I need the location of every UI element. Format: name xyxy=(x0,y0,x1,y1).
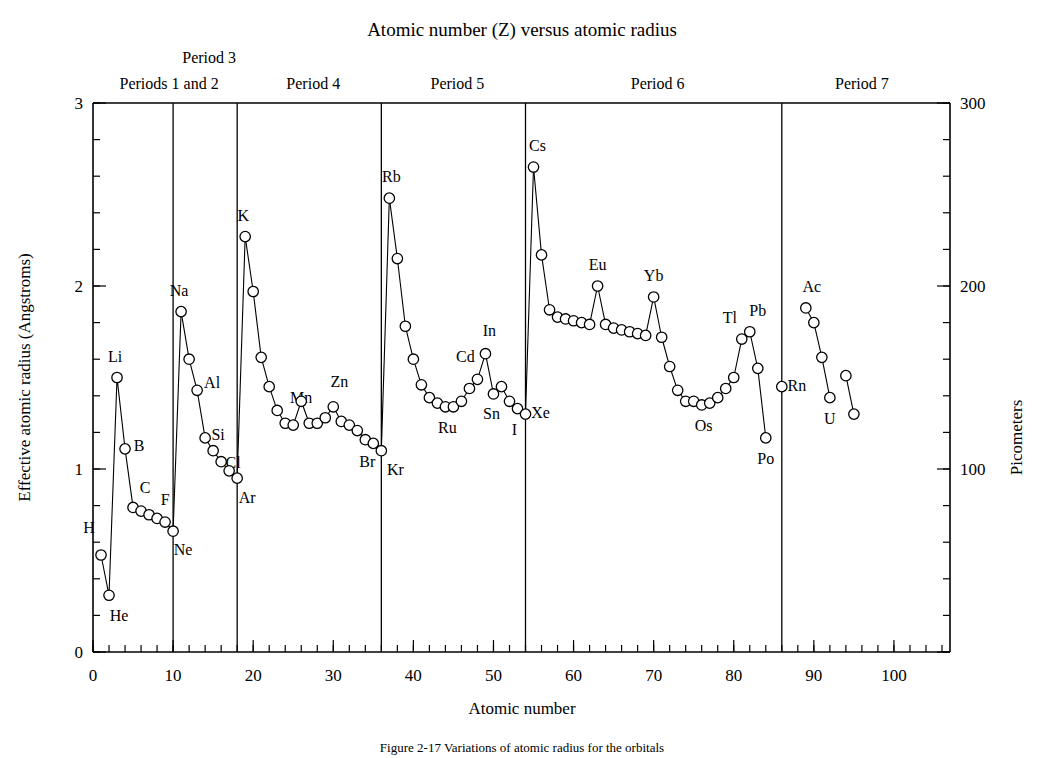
period-connector xyxy=(237,237,245,479)
data-point xyxy=(817,352,827,362)
data-point xyxy=(240,231,250,241)
data-point xyxy=(256,352,266,362)
x-axis-title: Atomic number xyxy=(468,699,576,718)
data-point xyxy=(176,306,186,316)
chart-title: Atomic number (Z) versus atomic radius xyxy=(367,19,677,41)
series-line-4 xyxy=(534,167,766,438)
data-point xyxy=(801,303,811,313)
data-point xyxy=(384,193,394,203)
element-label-Zn: Zn xyxy=(330,373,348,390)
data-point xyxy=(248,286,258,296)
data-point xyxy=(184,354,194,364)
data-point xyxy=(841,370,851,380)
data-point xyxy=(192,385,202,395)
element-label-Ru: Ru xyxy=(438,419,457,436)
series-line-3 xyxy=(389,198,525,414)
y-tick-label: 2 xyxy=(75,277,84,296)
figure-atomic-radius: Atomic number (Z) versus atomic radiusPe… xyxy=(0,0,1045,758)
period-connector xyxy=(173,312,181,532)
data-point xyxy=(376,446,386,456)
data-point xyxy=(120,444,130,454)
data-point xyxy=(584,319,594,329)
element-label-Na: Na xyxy=(170,282,189,299)
atomic-radius-chart: Atomic number (Z) versus atomic radiusPe… xyxy=(0,0,1045,758)
y-right-tick-label: 100 xyxy=(960,460,986,479)
element-label-I: I xyxy=(512,421,517,438)
period-connector xyxy=(526,167,534,414)
element-label-Li: Li xyxy=(108,348,123,365)
element-label-Rb: Rb xyxy=(382,168,401,185)
period-label-5: Period 6 xyxy=(631,75,685,92)
data-point xyxy=(104,590,114,600)
data-point xyxy=(745,327,755,337)
data-point xyxy=(592,281,602,291)
y-tick-label: 3 xyxy=(75,94,84,113)
data-point xyxy=(520,409,530,419)
element-label-Os: Os xyxy=(695,417,713,434)
element-label-F: F xyxy=(161,491,170,508)
element-label-Si: Si xyxy=(211,426,225,443)
x-tick-label: 100 xyxy=(881,666,907,685)
element-label-B: B xyxy=(134,437,145,454)
x-tick-label: 70 xyxy=(645,666,662,685)
element-label-Pb: Pb xyxy=(749,302,766,319)
y-right-tick-label: 200 xyxy=(960,277,986,296)
data-point xyxy=(416,380,426,390)
data-point xyxy=(232,473,242,483)
element-label-Yb: Yb xyxy=(644,267,664,284)
data-point xyxy=(777,381,787,391)
data-point xyxy=(648,292,658,302)
y-axis-title: Effective atomic radius (Angstroms) xyxy=(15,253,34,501)
element-label-Po: Po xyxy=(757,450,774,467)
element-label-Tl: Tl xyxy=(723,309,738,326)
element-label-Kr: Kr xyxy=(387,461,405,478)
element-label-Cd: Cd xyxy=(456,348,475,365)
data-point xyxy=(825,392,835,402)
data-point xyxy=(408,354,418,364)
x-tick-label: 80 xyxy=(725,666,742,685)
x-tick-label: 30 xyxy=(325,666,342,685)
element-label-He: He xyxy=(110,607,129,624)
x-tick-label: 0 xyxy=(89,666,98,685)
element-label-C: C xyxy=(140,479,151,496)
element-label-Rn: Rn xyxy=(787,377,806,394)
period-label-2: Period 3 xyxy=(182,49,236,66)
data-point xyxy=(272,405,282,415)
data-point xyxy=(849,409,859,419)
data-point xyxy=(208,446,218,456)
y-axis-right-title: Picometers xyxy=(1007,400,1026,476)
series-line-7 xyxy=(846,376,854,414)
data-point xyxy=(96,550,106,560)
data-point xyxy=(672,385,682,395)
x-tick-label: 10 xyxy=(165,666,182,685)
data-point xyxy=(320,413,330,423)
element-label-Eu: Eu xyxy=(589,256,607,273)
data-point xyxy=(713,392,723,402)
period-label-3: Period 4 xyxy=(286,75,340,92)
data-point xyxy=(400,321,410,331)
element-label-Br: Br xyxy=(359,453,376,470)
data-point xyxy=(296,396,306,406)
x-tick-label: 40 xyxy=(405,666,422,685)
element-label-Xe: Xe xyxy=(531,404,550,421)
data-point xyxy=(528,162,538,172)
period-label-1: Periods 1 and 2 xyxy=(120,75,219,92)
element-label-Ar: Ar xyxy=(239,489,257,506)
period-label-4: Period 5 xyxy=(431,75,485,92)
data-point xyxy=(480,349,490,359)
data-point xyxy=(464,383,474,393)
data-point xyxy=(456,396,466,406)
element-label-Cs: Cs xyxy=(529,137,546,154)
x-tick-label: 20 xyxy=(245,666,262,685)
y-tick-label: 0 xyxy=(75,643,84,662)
figure-caption: Figure 2-17 Variations of atomic radius … xyxy=(380,740,664,755)
data-point xyxy=(809,317,819,327)
data-point xyxy=(160,517,170,527)
element-label-Sn: Sn xyxy=(483,405,500,422)
data-point xyxy=(352,425,362,435)
data-point xyxy=(200,433,210,443)
data-point xyxy=(328,402,338,412)
x-tick-label: 60 xyxy=(565,666,582,685)
x-tick-label: 90 xyxy=(805,666,822,685)
data-point xyxy=(721,383,731,393)
